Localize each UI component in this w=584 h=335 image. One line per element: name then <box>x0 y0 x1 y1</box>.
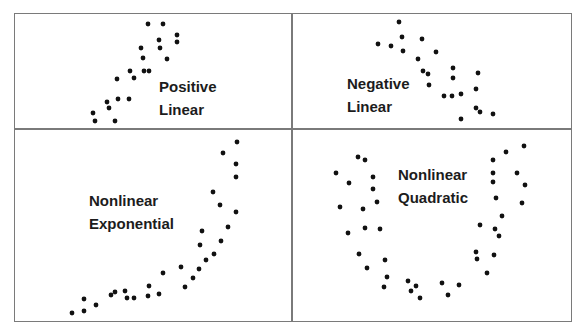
data-point <box>183 285 188 290</box>
data-point <box>520 201 525 206</box>
data-point <box>94 303 99 308</box>
data-point <box>459 92 464 97</box>
label-line: Positive <box>159 75 217 98</box>
data-point <box>389 44 394 49</box>
data-point <box>70 311 75 316</box>
data-point <box>347 181 352 186</box>
data-point <box>478 110 483 115</box>
data-point <box>491 158 496 163</box>
data-point <box>478 223 483 228</box>
data-point <box>363 158 368 163</box>
data-point <box>523 183 528 188</box>
data-point <box>375 200 380 205</box>
data-point <box>365 266 370 271</box>
data-point <box>198 243 203 248</box>
data-point <box>107 106 112 111</box>
data-point <box>191 276 196 281</box>
data-point <box>491 180 496 185</box>
data-point <box>414 284 419 289</box>
data-point <box>426 72 431 77</box>
label-nonlinear-exponential: Nonlinear Exponential <box>89 189 174 235</box>
data-point <box>491 171 496 176</box>
label-line: Negative <box>347 72 410 95</box>
data-point <box>459 117 464 122</box>
scatter-points <box>0 0 584 335</box>
data-point <box>416 57 421 62</box>
data-point <box>500 214 505 219</box>
label-line: Nonlinear <box>398 163 468 186</box>
data-point <box>175 33 180 38</box>
label-line: Linear <box>347 95 410 118</box>
data-point <box>147 69 152 74</box>
data-point <box>401 49 406 54</box>
data-point <box>357 252 362 257</box>
data-point <box>141 56 146 61</box>
data-point <box>157 292 162 297</box>
data-point <box>338 205 343 210</box>
data-point <box>132 76 137 81</box>
data-point <box>132 296 137 301</box>
data-point <box>109 293 114 298</box>
data-point <box>175 40 180 45</box>
data-point <box>504 150 509 155</box>
data-point <box>113 119 118 124</box>
data-point <box>400 35 405 40</box>
label-negative-linear: Negative Linear <box>347 72 410 118</box>
data-point <box>142 69 147 74</box>
data-point <box>378 227 383 232</box>
data-point <box>376 42 381 47</box>
data-point <box>474 87 479 92</box>
data-point <box>476 71 481 76</box>
data-point <box>515 171 520 176</box>
data-point <box>127 97 132 102</box>
data-point <box>139 46 144 51</box>
data-point <box>493 227 498 232</box>
data-point <box>123 289 128 294</box>
data-point <box>146 22 151 27</box>
data-point <box>382 285 387 290</box>
data-point <box>125 296 130 301</box>
data-point <box>235 140 240 145</box>
data-point <box>383 258 388 263</box>
data-point <box>494 196 499 201</box>
data-point <box>475 257 480 262</box>
data-point <box>457 283 462 288</box>
data-point <box>371 187 376 192</box>
label-nonlinear-quadratic: Nonlinear Quadratic <box>398 163 468 209</box>
data-point <box>212 252 217 257</box>
data-point <box>492 253 497 258</box>
data-point <box>211 190 216 195</box>
data-point <box>474 106 479 111</box>
data-point <box>418 296 423 301</box>
label-positive-linear: Positive Linear <box>159 75 217 121</box>
data-point <box>146 294 151 299</box>
data-point <box>427 83 432 88</box>
data-point <box>361 207 366 212</box>
data-point <box>334 171 339 176</box>
data-point <box>158 46 163 51</box>
data-point <box>406 279 411 284</box>
data-point <box>234 162 239 167</box>
data-point <box>497 234 502 239</box>
data-point <box>356 155 361 160</box>
data-point <box>219 239 224 244</box>
data-point <box>385 275 390 280</box>
data-point <box>221 151 226 156</box>
data-point <box>420 37 425 42</box>
data-point <box>397 20 402 25</box>
data-point <box>82 309 87 314</box>
data-point <box>128 69 133 74</box>
data-point <box>179 265 184 270</box>
data-point <box>82 297 87 302</box>
data-point <box>200 229 205 234</box>
data-point <box>218 203 223 208</box>
data-point <box>434 50 439 55</box>
data-point <box>451 76 456 81</box>
data-point <box>491 112 496 117</box>
data-point <box>93 119 98 124</box>
data-point <box>234 175 239 180</box>
data-point <box>446 293 451 298</box>
data-point <box>363 226 368 231</box>
data-point <box>522 144 527 149</box>
data-point <box>450 94 455 99</box>
